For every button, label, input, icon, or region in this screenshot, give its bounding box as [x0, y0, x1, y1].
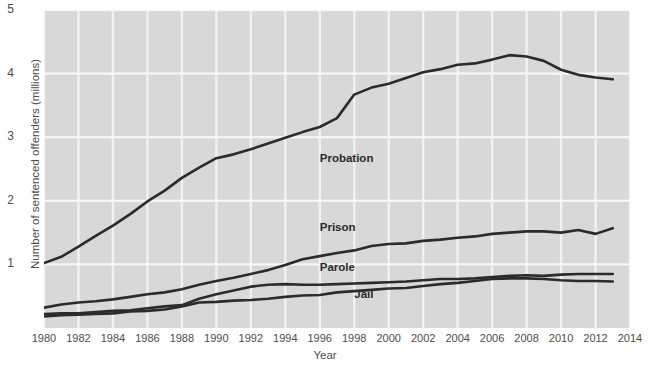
series-label-jail: Jail [354, 288, 373, 300]
series-label-probation: Probation [320, 152, 374, 164]
y-tick-label: 4 [0, 67, 14, 79]
x-tick-label: 2014 [610, 332, 650, 344]
y-tick-label: 2 [0, 194, 14, 206]
y-axis-title: Number of sentenced offenders (millions) [29, 49, 41, 279]
series-label-parole: Parole [320, 261, 355, 273]
y-tick-label: 3 [0, 130, 14, 142]
x-axis-title: Year [0, 349, 650, 361]
series-lines [44, 10, 630, 328]
y-tick-label: 5 [0, 3, 14, 15]
y-tick-label: 1 [0, 257, 14, 269]
series-label-prison: Prison [320, 221, 356, 233]
chart-figure: 12345 1980198219841986198819901992199419… [0, 0, 650, 372]
plot-panel [44, 10, 630, 328]
